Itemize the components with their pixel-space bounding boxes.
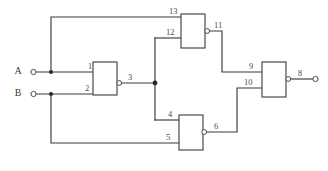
pin-label-6: 6 [214,121,218,131]
pin-label-1: 1 [88,61,92,71]
pin-label-12: 12 [166,27,175,37]
pin-label-5: 5 [166,132,170,142]
gate-3[interactable] [179,115,203,150]
gate-4-output-bubble-icon [286,77,291,82]
junction-dot-node3 [153,81,158,86]
gate-1-output-bubble-icon [117,81,122,86]
gate-1[interactable] [93,62,117,95]
junction-dot-a [49,70,53,74]
gate-2-output-bubble-icon [205,29,210,34]
output-terminal[interactable] [313,76,318,81]
input-terminal-b[interactable] [31,91,36,96]
input-terminal-a[interactable] [31,69,36,74]
junction-dot-b [49,92,53,96]
wire-node11-to-pin9 [209,31,262,72]
circuit-canvas: A B 1 2 3 4 5 6 8 9 10 11 12 13 [0,0,328,171]
pin-label-3: 3 [128,72,132,82]
wire-b-to-pin5 [51,94,179,143]
circuit-diagram: A B 1 2 3 4 5 6 8 9 10 11 12 13 [0,0,328,171]
input-label-b: B [15,87,22,98]
pin-label-13: 13 [169,6,178,16]
pin-label-4: 4 [168,109,173,119]
gate-3-output-bubble-icon [202,130,207,135]
pin-label-10: 10 [244,77,253,87]
pin-label-9: 9 [249,61,253,71]
pin-label-2: 2 [85,83,89,93]
gate-4[interactable] [262,62,286,97]
pin-label-11: 11 [214,20,222,30]
gate-2[interactable] [181,14,205,48]
input-label-a: A [14,65,22,76]
pin-label-8: 8 [298,68,302,78]
